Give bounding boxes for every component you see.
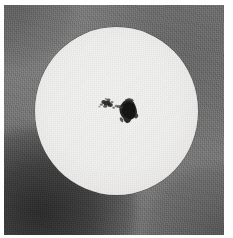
solar-disk [35,27,198,195]
photograph-frame: Black-and-white photograph of the full s… [0,0,233,238]
paper-border-top [0,0,233,5]
paper-border-left [0,0,4,238]
photographic-plate [4,5,224,235]
film-grain-overlay [35,27,198,195]
paper-border-right [224,0,233,238]
paper-border-bottom [0,235,233,238]
